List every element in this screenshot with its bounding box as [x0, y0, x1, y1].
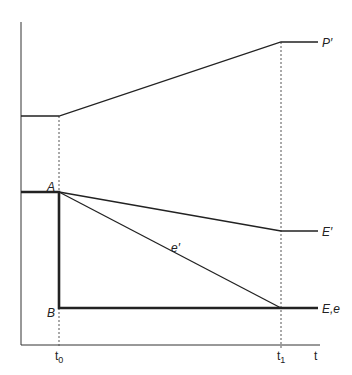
label-e-e: E,e [322, 302, 340, 316]
e-prime-big-curve [59, 192, 318, 231]
label-e-prime-big: E′ [322, 225, 333, 239]
tick-t1: t1 [277, 349, 285, 365]
x-axis-label: t [314, 349, 318, 363]
diagram-canvas: P′ E′ e′ E,e A B t0 t1 t [0, 0, 352, 375]
diagram-svg: P′ E′ e′ E,e A B t0 t1 t [0, 0, 352, 375]
label-p-prime: P′ [322, 36, 333, 50]
label-b: B [47, 306, 55, 320]
label-e-prime-small: e′ [171, 241, 181, 255]
tick-t0: t0 [55, 349, 63, 365]
e-prime-small-curve [59, 192, 281, 308]
p-prime-curve [21, 42, 318, 116]
label-a: A [46, 180, 55, 194]
